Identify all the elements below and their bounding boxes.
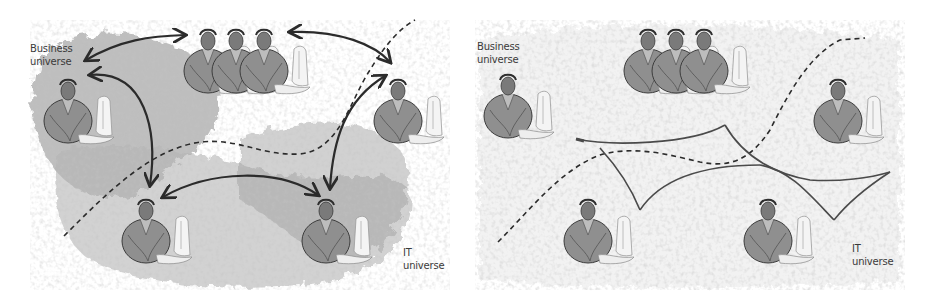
business-universe-label: Business universe: [30, 42, 73, 68]
business-universe-label: Business universe: [477, 40, 520, 66]
label-line-2: universe: [852, 255, 893, 268]
label-line-1: IT: [852, 242, 893, 255]
label-line-1: IT: [403, 246, 444, 259]
it-universe-label: IT universe: [852, 242, 893, 268]
it-universe-label: IT universe: [403, 246, 444, 272]
panel-shared-layer: Business universe IT universe: [460, 0, 925, 306]
label-line-2: universe: [477, 53, 520, 66]
label-line-1: Business: [30, 42, 73, 55]
label-line-1: Business: [477, 40, 520, 53]
label-line-2: universe: [30, 55, 73, 68]
panel-point-to-point: Business universe IT universe: [0, 0, 460, 306]
label-line-2: universe: [403, 259, 444, 272]
